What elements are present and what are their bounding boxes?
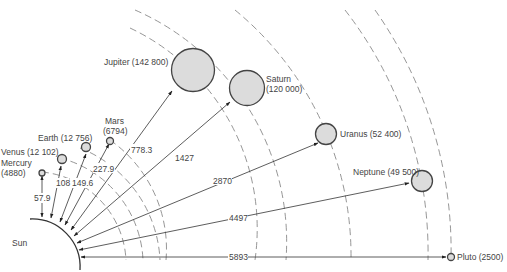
- planet-mars: [107, 138, 114, 145]
- label-neptune: Neptune (49 500): [353, 167, 419, 177]
- planets: [39, 49, 455, 261]
- label-jupiter: Jupiter (142 800): [104, 57, 168, 67]
- distance-earth: 149.6: [72, 178, 94, 188]
- arrow-venus: [51, 166, 61, 218]
- planet-pluto: [448, 254, 455, 261]
- distance-venus: 108: [56, 178, 70, 188]
- planet-mercury: [39, 170, 45, 176]
- planet-venus: [58, 155, 67, 164]
- orbit-earth: [80, 148, 160, 260]
- planet-jupiter: [172, 49, 215, 92]
- planet-earth: [82, 143, 91, 152]
- planet-saturn: [230, 71, 265, 106]
- arrow-jupiter: [71, 91, 172, 230]
- label-mars: Mars: [105, 116, 124, 126]
- distance-neptune: 4497: [229, 213, 248, 223]
- label-mars-diameter: (6794): [103, 126, 128, 136]
- planet-uranus: [316, 124, 337, 145]
- label-earth: Earth (12 756): [38, 133, 93, 143]
- sun-outline: [30, 219, 80, 270]
- distance-uranus: 2870: [213, 176, 232, 186]
- label-uranus: Uranus (52 400): [340, 129, 402, 139]
- label-mercury-diameter: (4880): [1, 168, 26, 178]
- label-mercury: Mercury: [1, 158, 32, 168]
- distance-saturn: 1427: [175, 153, 194, 163]
- sun-label: Sun: [12, 238, 27, 248]
- label-venus: Venus (12 102): [1, 147, 59, 157]
- label-saturn-diameter: (120 000): [266, 84, 303, 94]
- distance-jupiter: 778.3: [131, 145, 153, 155]
- distance-pluto: 5893: [229, 252, 248, 262]
- orbit-saturn: [135, 10, 287, 260]
- distance-mercury: 57.9: [34, 193, 51, 203]
- label-saturn: Saturn: [266, 74, 291, 84]
- solar-system-diagram: Sun 57.9 108 149.6 227.9 778.3 1427 2870…: [0, 0, 507, 272]
- label-pluto: Pluto (2500): [457, 252, 503, 262]
- distance-mars: 227.9: [93, 164, 115, 174]
